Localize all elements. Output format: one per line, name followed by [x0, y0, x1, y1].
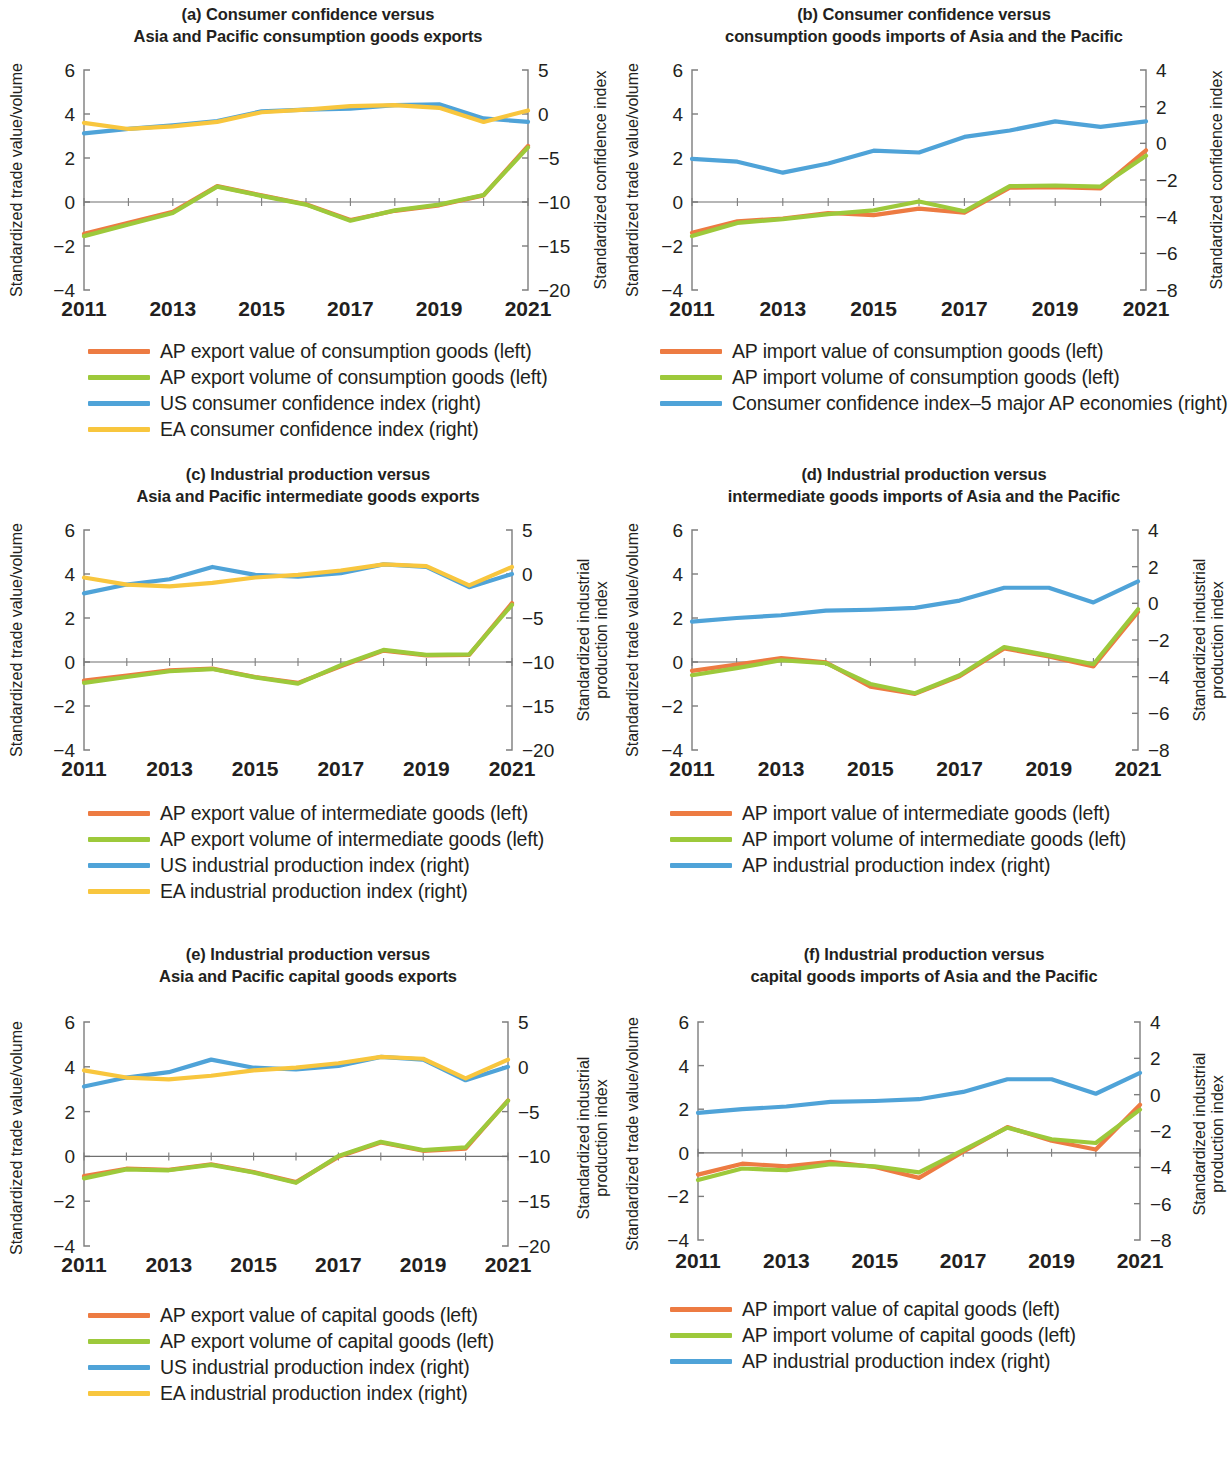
x-tick-label: 2021 — [1123, 297, 1170, 318]
panel-a-legend: AP export value of consumption goods (le… — [88, 338, 616, 442]
right-tick-label: −10 — [538, 192, 570, 213]
x-tick-label: 2021 — [505, 297, 552, 318]
panel-c: (c) Industrial production versus Asia an… — [0, 460, 616, 930]
right-axis-title: Standardized confidence index — [592, 70, 609, 289]
legend-item[interactable]: AP import volume of capital goods (left) — [670, 1322, 1232, 1348]
x-tick-label: 2019 — [1025, 757, 1072, 778]
right-tick-label: −5 — [522, 608, 544, 629]
legend-item[interactable]: AP export value of consumption goods (le… — [88, 338, 616, 364]
left-tick-label: 4 — [64, 104, 75, 125]
x-tick-label: 2013 — [149, 297, 196, 318]
legend-item[interactable]: AP export volume of intermediate goods (… — [88, 826, 616, 852]
legend-label: US industrial production index (right) — [160, 854, 470, 877]
legend-color-swatch-icon — [88, 401, 150, 406]
panel-d-svg: 6420−2−4420−2−4−6−8201120132015201720192… — [616, 508, 1232, 778]
svg-text:production index: production index — [1209, 1075, 1226, 1192]
figure-panel-grid: (a) Consumer confidence versus Asia and … — [0, 0, 1232, 1468]
legend-item[interactable]: AP export value of capital goods (left) — [88, 1302, 616, 1328]
x-tick-label: 2011 — [61, 757, 107, 778]
legend-item[interactable]: US industrial production index (right) — [88, 1354, 616, 1380]
x-tick-label: 2015 — [850, 297, 897, 318]
legend-item[interactable]: AP industrial production index (right) — [670, 852, 1232, 878]
legend-item[interactable]: EA industrial production index (right) — [88, 1380, 616, 1406]
series-line — [698, 1072, 1140, 1112]
left-tick-label: 2 — [64, 1101, 75, 1122]
x-tick-label: 2015 — [238, 297, 285, 318]
series-line — [84, 1100, 508, 1182]
panel-e: (e) Industrial production versus Asia an… — [0, 930, 616, 1468]
legend-color-swatch-icon — [88, 1365, 150, 1370]
legend-item[interactable]: Consumer confidence index–5 major AP eco… — [660, 390, 1232, 416]
legend-item[interactable]: US industrial production index (right) — [88, 852, 616, 878]
series-line — [692, 581, 1138, 621]
left-axis-title: Standardized trade value/volume — [8, 522, 25, 756]
panel-d-title-line2: intermediate goods imports of Asia and t… — [650, 486, 1198, 508]
svg-text:production index: production index — [1209, 581, 1226, 698]
left-tick-label: −4 — [667, 1230, 689, 1251]
legend-item[interactable]: AP import value of intermediate goods (l… — [670, 800, 1232, 826]
legend-color-swatch-icon — [660, 401, 722, 406]
panel-b-legend: AP import value of consumption goods (le… — [660, 338, 1232, 416]
legend-color-swatch-icon — [88, 1313, 150, 1318]
left-tick-label: 2 — [672, 608, 683, 629]
panel-b-svg: 6420−2−4420−2−4−6−8201120132015201720192… — [616, 48, 1232, 318]
panel-a: (a) Consumer confidence versus Asia and … — [0, 0, 616, 460]
legend-label: Consumer confidence index–5 major AP eco… — [732, 392, 1228, 415]
legend-item[interactable]: EA industrial production index (right) — [88, 878, 616, 904]
legend-item[interactable]: AP import volume of consumption goods (l… — [660, 364, 1232, 390]
left-axis-title: Standardized trade value/volume — [624, 522, 641, 756]
legend-label: EA consumer confidence index (right) — [160, 418, 479, 441]
legend-item[interactable]: AP export volume of consumption goods (l… — [88, 364, 616, 390]
left-axis-title: Standardized trade value/volume — [8, 62, 25, 296]
legend-label: US industrial production index (right) — [160, 1356, 470, 1379]
left-tick-label: 2 — [64, 148, 75, 169]
panel-d: (d) Industrial production versus interme… — [616, 460, 1232, 930]
legend-item[interactable]: AP export value of intermediate goods (l… — [88, 800, 616, 826]
right-tick-label: 0 — [538, 104, 549, 125]
legend-item[interactable]: AP import volume of intermediate goods (… — [670, 826, 1232, 852]
legend-item[interactable]: AP industrial production index (right) — [670, 1348, 1232, 1374]
x-tick-label: 2019 — [1032, 297, 1079, 318]
left-tick-label: −2 — [53, 236, 75, 257]
left-tick-label: 2 — [678, 1099, 689, 1120]
right-tick-label: −6 — [1148, 703, 1170, 724]
legend-item[interactable]: US consumer confidence index (right) — [88, 390, 616, 416]
legend-color-swatch-icon — [660, 349, 722, 354]
left-tick-label: −2 — [53, 696, 75, 717]
right-tick-label: −2 — [1150, 1121, 1172, 1142]
left-tick-label: 0 — [64, 192, 75, 213]
right-tick-label: 4 — [1150, 1012, 1161, 1033]
left-tick-label: 4 — [64, 564, 75, 585]
right-tick-label: −6 — [1156, 243, 1178, 264]
legend-label: AP import value of consumption goods (le… — [732, 340, 1103, 363]
panel-b-title-line1: (b) Consumer confidence versus — [797, 5, 1051, 23]
x-tick-label: 2011 — [61, 297, 107, 318]
panel-a-title-line2: Asia and Pacific consumption goods expor… — [34, 26, 582, 48]
left-tick-label: 0 — [64, 652, 75, 673]
x-tick-label: 2021 — [1117, 1249, 1164, 1272]
legend-label: AP import volume of capital goods (left) — [742, 1324, 1076, 1347]
panel-c-svg: 6420−2−450−5−10−15−202011201320152017201… — [0, 508, 616, 778]
legend-item[interactable]: EA consumer confidence index (right) — [88, 416, 616, 442]
panel-b: (b) Consumer confidence versus consumpti… — [616, 0, 1232, 460]
legend-item[interactable]: AP import value of capital goods (left) — [670, 1296, 1232, 1322]
x-tick-label: 2017 — [317, 757, 364, 778]
legend-color-swatch-icon — [88, 863, 150, 868]
left-tick-label: 0 — [672, 652, 683, 673]
svg-text:Standardized industrial: Standardized industrial — [1191, 558, 1208, 721]
x-tick-label: 2017 — [941, 297, 988, 318]
legend-color-swatch-icon — [88, 837, 150, 842]
panel-c-title-line1: (c) Industrial production versus — [186, 465, 430, 483]
right-tick-label: 0 — [1156, 133, 1167, 154]
right-tick-label: −10 — [522, 652, 554, 673]
legend-color-swatch-icon — [88, 349, 150, 354]
svg-text:production index: production index — [593, 1079, 610, 1196]
legend-label: AP export value of consumption goods (le… — [160, 340, 532, 363]
legend-color-swatch-icon — [670, 1359, 732, 1364]
right-tick-label: 0 — [1148, 593, 1159, 614]
legend-item[interactable]: AP import value of consumption goods (le… — [660, 338, 1232, 364]
right-axis-title: Standardized industrialproduction index — [1191, 558, 1226, 721]
legend-item[interactable]: AP export volume of capital goods (left) — [88, 1328, 616, 1354]
x-tick-label: 2015 — [230, 1253, 277, 1276]
panel-e-plot: 6420−2−450−5−10−15−202011201320152017201… — [0, 988, 616, 1278]
